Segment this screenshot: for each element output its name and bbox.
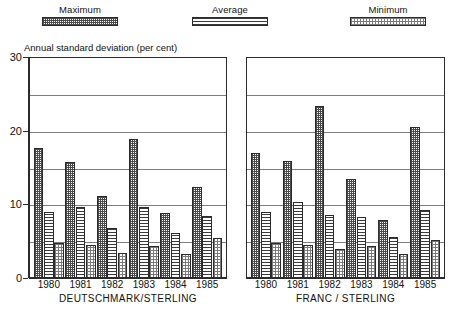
legend-swatch-average (192, 17, 268, 26)
x-tick-label-1981: 1981 (69, 278, 91, 291)
chart-panel-franc-sterling: 198019811982198319841985 FRANC / STERLIN… (246, 57, 445, 278)
legend-label-minimum: Minimum (340, 4, 436, 15)
x-tick-label-1981: 1981 (287, 278, 309, 291)
legend-item-maximum: Maximum (30, 4, 130, 26)
gridline (247, 95, 444, 96)
plot-frame-left (29, 57, 227, 278)
y-axis-tick-label: 20 (10, 125, 22, 136)
gridline (30, 205, 226, 206)
x-tick-label-1982: 1982 (101, 278, 123, 291)
gridline (30, 95, 226, 96)
legend-label-maximum: Maximum (30, 4, 130, 15)
y-axis-tick (23, 278, 28, 279)
x-tick-label-1984: 1984 (382, 278, 404, 291)
legend-label-average: Average (180, 4, 280, 15)
y-axis-tick-label: 0 (16, 273, 22, 284)
gridline (247, 132, 444, 133)
gridline (30, 242, 226, 243)
gridline (247, 205, 444, 206)
x-tick-label-1983: 1983 (133, 278, 155, 291)
x-tick-label-1983: 1983 (350, 278, 372, 291)
x-tick-label-1980: 1980 (38, 278, 60, 291)
x-tick-label-1985: 1985 (414, 278, 436, 291)
panel-caption-right: FRANC / STERLING (246, 293, 445, 304)
legend-item-average: Average (180, 4, 280, 26)
y-axis-tick-label: 30 (10, 52, 22, 63)
legend-swatch-maximum (42, 17, 118, 26)
x-tick-labels-left: 198019811982198319841985 (29, 278, 227, 292)
x-tick-label-1980: 1980 (255, 278, 277, 291)
x-tick-label-1982: 1982 (318, 278, 340, 291)
legend-swatch-minimum (350, 17, 426, 26)
chart-panel-deutschmark-sterling: 198019811982198319841985 DEUTSCHMARK/STE… (29, 57, 227, 278)
gridline (247, 242, 444, 243)
y-axis-tick (23, 57, 28, 58)
gridline (30, 169, 226, 170)
gridline (30, 132, 226, 133)
y-axis-tick (23, 204, 28, 205)
y-axis-tick (23, 131, 28, 132)
plot-frame-right (246, 57, 445, 278)
legend-item-minimum: Minimum (340, 4, 436, 26)
panel-caption-left: DEUTSCHMARK/STERLING (29, 293, 227, 304)
gridline (247, 169, 444, 170)
x-tick-label-1984: 1984 (164, 278, 186, 291)
y-axis-tick-label: 10 (10, 199, 22, 210)
y-axis-title: Annual standard deviation (per cent) (24, 42, 177, 53)
x-tick-label-1985: 1985 (196, 278, 218, 291)
chart-legend: Maximum Average Minimum (0, 0, 450, 36)
x-tick-labels-right: 198019811982198319841985 (246, 278, 445, 292)
